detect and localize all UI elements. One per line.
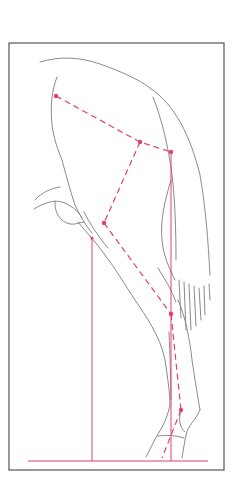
diagram-frame: [9, 43, 224, 470]
construction-lines: [56, 96, 181, 458]
horse-leg-outline: [34, 58, 210, 458]
buttock-point: [169, 150, 173, 154]
hock-point: [169, 312, 173, 316]
hip-joint-point: [138, 140, 142, 144]
horse-hind-leg-diagram: Horse hind leg conformation diagram: [0, 0, 241, 498]
stifle-point: [102, 221, 106, 225]
gaskin-point: [90, 236, 93, 239]
hip-point: [54, 94, 58, 98]
fetlock-point: [179, 408, 183, 412]
